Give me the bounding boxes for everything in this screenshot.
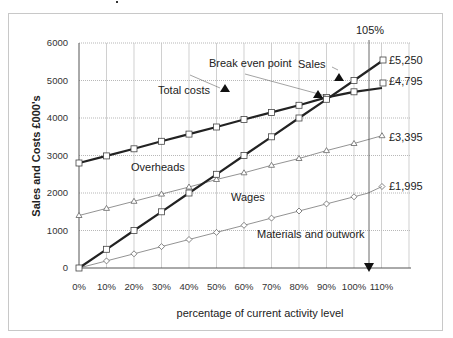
x-axis-title: percentage of current activity level bbox=[177, 307, 344, 319]
y-tick-3000: 3000 bbox=[47, 150, 68, 161]
break-even-chart: 0 1000 2000 3000 4000 5000 6000 0% 10% 2… bbox=[0, 0, 453, 338]
label-total-costs: Total costs bbox=[158, 84, 210, 96]
x-tick-50: 50% bbox=[207, 281, 227, 292]
y-tick-0: 0 bbox=[63, 262, 68, 273]
y-axis-title: Sales and Costs £000's bbox=[30, 95, 42, 216]
y-tick-4000: 4000 bbox=[47, 112, 68, 123]
end-label-materials: £1,995 bbox=[389, 180, 423, 192]
x-tick-110: 110% bbox=[370, 281, 394, 292]
label-105-percent: 105% bbox=[356, 24, 384, 36]
label-wages: Wages bbox=[231, 191, 265, 203]
x-tick-80: 80% bbox=[289, 281, 309, 292]
end-label-wages: £3,395 bbox=[389, 131, 423, 143]
x-tick-60: 60% bbox=[234, 281, 254, 292]
x-tick-100: 100% bbox=[342, 281, 367, 292]
label-break-even-point: Break even point bbox=[209, 57, 292, 69]
label-sales: Sales bbox=[298, 58, 326, 70]
x-tick-0: 0% bbox=[72, 281, 86, 292]
end-label-sales: £5,250 bbox=[389, 54, 423, 66]
y-tick-6000: 6000 bbox=[47, 37, 68, 48]
label-overheads: Overheads bbox=[131, 161, 185, 173]
x-tick-70: 70% bbox=[262, 281, 282, 292]
end-label-total-costs: £4,795 bbox=[389, 75, 423, 87]
title-fragment bbox=[116, 1, 118, 3]
x-tick-20: 20% bbox=[124, 281, 144, 292]
x-tick-40: 40% bbox=[179, 281, 199, 292]
y-tick-5000: 5000 bbox=[47, 75, 68, 86]
x-tick-30: 30% bbox=[152, 281, 172, 292]
y-tick-2000: 2000 bbox=[47, 187, 68, 198]
x-tick-10: 10% bbox=[97, 281, 117, 292]
x-tick-90: 90% bbox=[317, 281, 337, 292]
y-tick-1000: 1000 bbox=[47, 225, 68, 236]
label-materials-and-outwork: Materials and outwork bbox=[257, 228, 365, 240]
